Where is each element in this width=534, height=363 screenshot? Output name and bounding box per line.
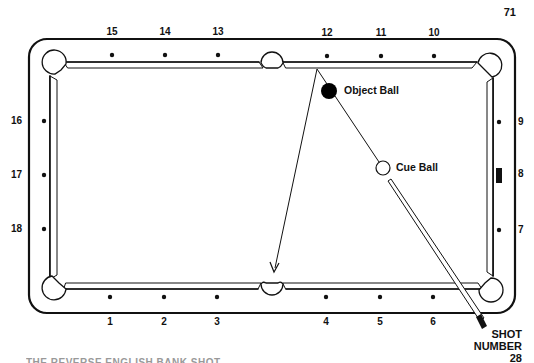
top-left-cushion <box>64 62 263 68</box>
diamond-label-1: 1 <box>107 317 113 327</box>
shot-number-block: SHOT NUMBER 28 <box>474 328 522 363</box>
diamond-label-2: 2 <box>161 317 167 327</box>
diamond-label-18: 18 <box>11 224 22 234</box>
diamond-label-12: 12 <box>321 28 332 38</box>
pocket-top-left <box>42 50 66 74</box>
pocket-bottom-left <box>42 276 66 300</box>
shot-path <box>270 69 383 272</box>
cue-stick <box>388 179 487 329</box>
diamond-label-10: 10 <box>428 28 439 38</box>
number-label: NUMBER <box>474 340 522 352</box>
pocket-bottom-middle <box>261 282 283 295</box>
rebound-path <box>275 69 317 268</box>
diamond-label-16: 16 <box>11 116 22 126</box>
diamond-label-17: 17 <box>11 170 22 180</box>
footer-caption-partial: THE REVERSE ENGLISH BANK SHOT <box>26 356 386 363</box>
diamond-label-8: 8 <box>518 169 524 179</box>
diamond-label-9: 9 <box>518 117 524 127</box>
pocket-bottom-right <box>479 278 503 302</box>
diamond-label-5: 5 <box>377 317 383 327</box>
right-cushion <box>487 78 493 276</box>
diamond-label-4: 4 <box>323 317 329 327</box>
pocket-top-right <box>478 53 502 77</box>
table-outer-frame <box>29 39 515 313</box>
object-ball <box>321 83 337 99</box>
diamond-8-marker-bar <box>496 168 502 183</box>
pool-table-diagram <box>0 0 534 363</box>
arrowhead-icon <box>270 262 279 272</box>
cue-ball-label: Cue Ball <box>396 161 438 173</box>
bottom-left-cushion <box>64 283 261 289</box>
cue-ball <box>376 161 390 175</box>
diamond-label-15: 15 <box>106 27 117 37</box>
shot-label: SHOT <box>474 328 522 340</box>
diamond-label-6: 6 <box>430 317 436 327</box>
bottom-right-cushion <box>283 283 482 289</box>
diamond-markers <box>42 53 502 299</box>
diamond-label-3: 3 <box>214 317 220 327</box>
top-right-cushion <box>283 62 477 68</box>
object-ball-label: Object Ball <box>344 84 399 96</box>
pocket-top-middle <box>261 52 283 68</box>
diamond-label-11: 11 <box>376 28 387 38</box>
diamond-label-14: 14 <box>159 27 170 37</box>
left-cushion <box>50 76 57 279</box>
page-number: 71 <box>504 6 516 18</box>
shot-number-value: 28 <box>474 352 522 363</box>
diamond-label-7: 7 <box>518 225 524 235</box>
diamond-label-13: 13 <box>212 27 223 37</box>
